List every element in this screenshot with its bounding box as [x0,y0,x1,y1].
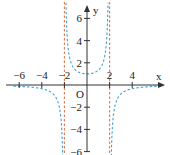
x-tick-label: 2 [107,69,113,81]
curve-branch [14,86,63,155]
tick-marks: −6−4−224642−2−4−6 [13,12,135,155]
x-tick-label: 4 [129,69,135,81]
y-tick-label: −2 [70,101,82,113]
function-plot: −6−4−224642−2−4−6 x y O [0,0,170,155]
curve-branch [111,86,164,155]
y-axis-label: y [93,4,99,16]
origin-label: O [76,88,84,100]
y-tick-label: 2 [77,57,83,69]
y-tick-label: 6 [77,12,83,24]
y-tick-label: −6 [70,146,82,155]
y-axis-arrow-icon [84,5,90,12]
y-tick-label: −4 [70,123,82,135]
axes [6,5,165,152]
x-axis-label: x [156,70,162,82]
x-axis-arrow-icon [158,82,165,88]
y-tick-label: 4 [77,35,83,47]
x-tick-label: −2 [59,69,71,81]
x-tick-label: −6 [13,69,25,81]
x-tick-label: −4 [36,69,48,81]
